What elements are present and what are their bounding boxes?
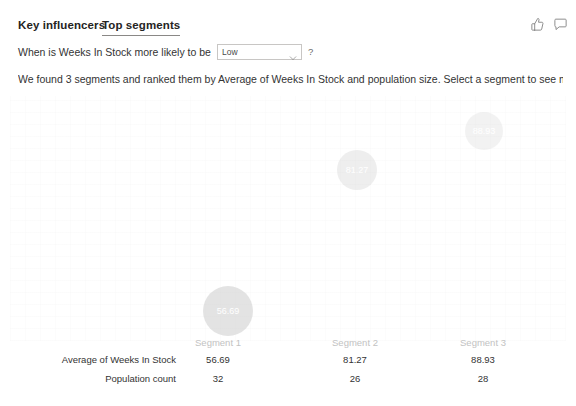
comment-icon[interactable]	[553, 17, 568, 32]
tab-key-influencers[interactable]: Key influencers	[18, 18, 105, 32]
cell-population-segment-2: 26	[300, 372, 410, 385]
influence-level-dropdown[interactable]: Low	[217, 44, 302, 60]
question-row: When is Weeks In Stock more likely to be…	[18, 43, 313, 61]
cell-avg-weeks-segment-2: 81.27	[300, 353, 410, 366]
segments-description: We found 3 segments and ranked them by A…	[18, 72, 563, 86]
column-header-segment-1: Segment 1	[163, 336, 273, 349]
dropdown-selected-value: Low	[218, 47, 238, 57]
cell-avg-weeks-segment-1: 56.69	[163, 353, 273, 366]
segment-bubble-value: 88.93	[473, 126, 496, 137]
segment-bubble-1[interactable]: 56.69	[203, 286, 253, 336]
segments-summary-table: Segment 1 Segment 2 Segment 3 Average of…	[0, 336, 576, 394]
segments-scatter-plot: 56.69 Segment 1 81.27 Segment 2 88.93 Se…	[0, 96, 576, 341]
help-question-mark[interactable]: ?	[308, 46, 313, 58]
row-label-population-count: Population count	[20, 372, 176, 385]
table-row: Population count 32 26 28	[0, 372, 576, 389]
segment-bubble-3[interactable]: 88.93	[465, 112, 503, 150]
question-label: When is Weeks In Stock more likely to be	[18, 45, 211, 59]
tabs-bar: Key influencers Top segments	[0, 0, 576, 36]
tab-top-segments[interactable]: Top segments	[102, 18, 180, 32]
thumbs-up-icon[interactable]	[530, 17, 545, 32]
segment-bubble-value: 81.27	[346, 165, 369, 176]
segment-bubble-value: 56.69	[217, 306, 240, 317]
column-header-segment-3: Segment 3	[428, 336, 538, 349]
cell-population-segment-3: 28	[428, 372, 538, 385]
chevron-down-icon	[289, 48, 297, 56]
cell-population-segment-1: 32	[163, 372, 273, 385]
segment-bubble-2[interactable]: 81.27	[337, 150, 377, 190]
header-icon-group	[530, 17, 568, 32]
column-header-segment-2: Segment 2	[300, 336, 410, 349]
row-label-average-weeks-in-stock: Average of Weeks In Stock	[20, 353, 176, 366]
cell-avg-weeks-segment-3: 88.93	[428, 353, 538, 366]
table-header-row: Segment 1 Segment 2 Segment 3	[0, 336, 576, 353]
table-row: Average of Weeks In Stock 56.69 81.27 88…	[0, 353, 576, 370]
